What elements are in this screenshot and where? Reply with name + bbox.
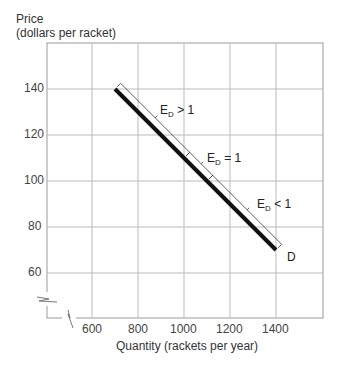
y-axis-label-line2: (dollars per racket) — [16, 26, 116, 40]
x-tick-label: 600 — [82, 322, 102, 336]
y-axis-label-line1: Price — [16, 12, 116, 26]
x-axis-label: Quantity (rackets per year) — [116, 339, 258, 353]
brace — [117, 83, 190, 156]
axes — [37, 292, 76, 328]
x-tick-label: 800 — [128, 322, 148, 336]
y-tick-label: 100 — [24, 173, 44, 187]
y-axis-label: Price (dollars per racket) — [16, 12, 116, 40]
annotation-inelastic: ED < 1 — [257, 197, 291, 213]
x-tick-label: 1000 — [170, 322, 197, 336]
demand-chart — [0, 0, 338, 365]
y-tick-label: 140 — [24, 81, 44, 95]
grid — [47, 43, 323, 318]
x-tick-label: 1400 — [262, 322, 289, 336]
elasticity-braces — [117, 83, 282, 248]
annotation-unit-elastic: ED = 1 — [207, 151, 241, 167]
y-tick-label: 80 — [28, 219, 41, 233]
curve-label-d: D — [287, 250, 296, 264]
y-tick-label: 120 — [24, 127, 44, 141]
y-tick-label: 60 — [28, 265, 41, 279]
demand-curve — [115, 89, 276, 250]
annotation-elastic: ED > 1 — [160, 103, 194, 119]
x-tick-label: 1200 — [216, 322, 243, 336]
